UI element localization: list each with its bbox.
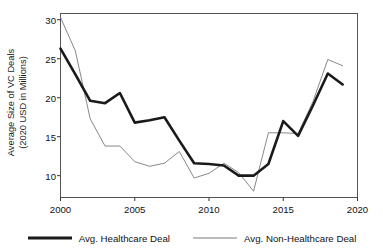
series-line-non-healthcare (61, 17, 343, 191)
legend-item-healthcare: Avg. Healthcare Deal (27, 233, 170, 244)
legend-item-non-healthcare: Avg. Non-Healthcare Deal (192, 233, 356, 244)
chart-figure: Average Size of VC Deals (2020 USD in Mi… (0, 0, 383, 252)
chart-legend: Avg. Healthcare Deal Avg. Non-Healthcare… (0, 228, 383, 248)
legend-swatch-non-healthcare (192, 233, 238, 243)
data-series-group (61, 17, 343, 191)
legend-label-healthcare: Avg. Healthcare Deal (79, 233, 170, 244)
series-line-healthcare (61, 49, 343, 176)
plot-area (0, 0, 383, 252)
legend-label-non-healthcare: Avg. Non-Healthcare Deal (244, 233, 356, 244)
legend-swatch-healthcare (27, 233, 73, 243)
